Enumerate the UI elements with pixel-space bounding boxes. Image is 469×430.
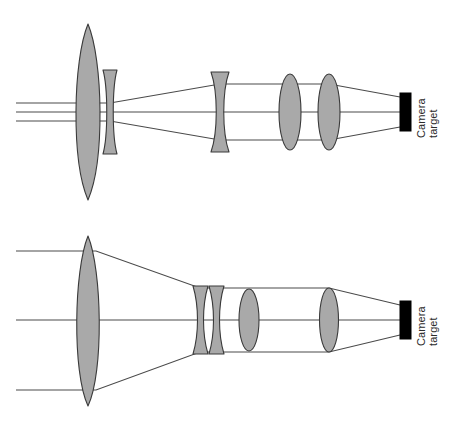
objective-lens-top [76,24,100,200]
ray-lower-bottom [16,335,400,390]
relay-lens-2-bottom [320,288,339,352]
camera-target-label-line2-top: target [427,109,439,138]
ray-upper-top [16,84,400,103]
ray-bundle-top [16,84,400,140]
camera-target-label-line1-bottom: Camera [415,305,427,346]
ray-lower-top [16,121,400,140]
relay-lens-1-top [279,74,301,150]
relay-lens-2-top [318,74,340,150]
ray-bundle-bottom [16,251,400,390]
relay-lens-1-bottom [239,289,259,351]
camera-target-label-top: Camera target [415,97,439,138]
camera-target-label-bottom: Camera target [415,305,439,346]
upper-optical-system: Camera target [16,24,439,200]
ray-upper-bottom [16,251,400,305]
lower-optical-system: Camera target [16,236,439,406]
camera-target-label-line2-bottom: target [427,317,439,346]
camera-target-label-line1-top: Camera [415,97,427,138]
optics-svg: Camera target [0,0,469,430]
optical-diagram-canvas: Camera target [0,0,469,430]
camera-target-top [400,93,411,131]
camera-target-bottom [400,301,411,339]
objective-lens-bottom [77,236,100,406]
